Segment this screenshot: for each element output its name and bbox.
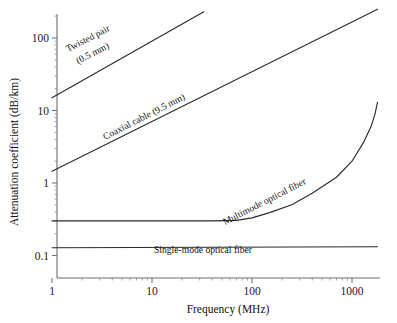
series-line-multimode-optical-fiber: [52, 102, 378, 221]
y-tick-label: 100: [32, 32, 50, 44]
series-label-coaxial-cable: Coaxial cable (9.5 mm): [101, 91, 187, 143]
y-axis-ticks: [52, 16, 57, 255]
x-axis-title: Frequency (MHz): [187, 303, 270, 316]
series-label-multimode-fiber: Multimode optical fiber: [221, 175, 308, 227]
x-axis-ticks: [52, 278, 352, 283]
series-annotations-group: Twisted pair (0.5 mm) Coaxial cable (9.5…: [64, 22, 308, 255]
y-axis-title: Attenuation coefficient (dB/km): [8, 78, 21, 226]
axes-group: [57, 14, 380, 278]
chart-canvas: 0.1110100 1101001000 Frequency (MHz) Att…: [0, 0, 397, 323]
x-tick-label: 1000: [341, 285, 364, 297]
series-label-single-mode-fiber: Single-mode optical fiber: [154, 244, 253, 255]
y-tick-label: 0.1: [35, 250, 50, 262]
x-tick-label: 1: [49, 285, 55, 297]
x-axis-tick-labels: 1101001000: [49, 285, 364, 297]
attenuation-chart: 0.1110100 1101001000 Frequency (MHz) Att…: [0, 0, 397, 323]
y-tick-label: 10: [38, 105, 50, 117]
x-tick-label: 10: [146, 285, 158, 297]
x-tick-label: 100: [243, 285, 261, 297]
y-tick-label: 1: [43, 177, 49, 189]
y-axis-tick-labels: 0.1110100: [32, 32, 50, 262]
